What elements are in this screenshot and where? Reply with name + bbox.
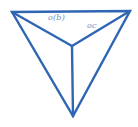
triangle-graphic bbox=[0, 0, 138, 127]
triangle-diagram: o(b) oc bbox=[0, 0, 138, 127]
outer-triangle bbox=[12, 11, 130, 116]
label-c: oc bbox=[87, 22, 97, 30]
label-b: o(b) bbox=[48, 14, 65, 22]
edge-center-to-bottom bbox=[72, 46, 73, 116]
